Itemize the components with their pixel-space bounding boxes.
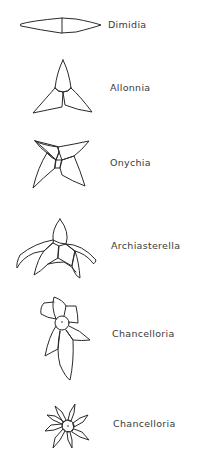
label-chancelloria-1: Chancelloria — [112, 328, 175, 339]
archiasterella-sclerite-icon — [17, 219, 96, 278]
chancelloria-sclerite-icon — [41, 297, 90, 380]
chancelloria-star-sclerite-icon — [45, 404, 89, 448]
label-archiasterella: Archiasterella — [111, 240, 180, 251]
sclerite-diagram — [0, 0, 205, 460]
label-chancelloria-2: Chancelloria — [113, 418, 176, 429]
allonnia-sclerite-icon — [33, 60, 92, 113]
onychia-sclerite-icon — [33, 141, 89, 188]
dimidia-sclerite-icon — [21, 18, 101, 33]
label-dimidia: Dimidia — [108, 19, 146, 30]
label-onychia: Onychia — [110, 157, 151, 168]
label-allonnia: Allonnia — [110, 82, 151, 93]
